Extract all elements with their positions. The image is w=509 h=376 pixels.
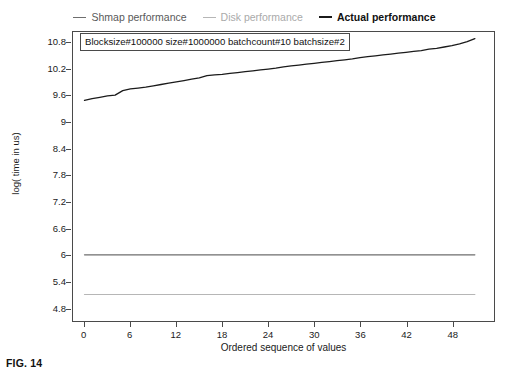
y-axis-tick-label: 6 [20, 250, 66, 260]
y-axis-tick-label: 9 [20, 117, 66, 127]
legend-label-disk: Disk performance [221, 11, 303, 23]
y-axis-tick-mark [66, 149, 71, 150]
x-axis-tick-label: 42 [387, 329, 427, 340]
x-axis-tick-mark [84, 322, 85, 327]
x-axis-tick-label: 30 [294, 329, 334, 340]
legend-item-disk: Disk performance [203, 11, 303, 23]
y-axis-tick-mark [66, 255, 71, 256]
legend-label-actual: Actual performance [337, 11, 436, 23]
x-axis-tick-mark [407, 322, 408, 327]
x-axis-tick-mark [222, 322, 223, 327]
y-axis-tick-mark [66, 122, 71, 123]
y-axis-tick-label: 8.4 [20, 144, 66, 154]
x-axis-tick-mark [360, 322, 361, 327]
y-axis-tick-mark [66, 95, 71, 96]
y-axis-title: log( time in us) [10, 114, 21, 214]
x-axis-tick-mark [453, 322, 454, 327]
x-axis-tick-label: 24 [248, 329, 288, 340]
line-swatch-icon [319, 16, 332, 18]
y-axis-tick-mark [66, 229, 71, 230]
y-axis-tick-label: 10.8 [20, 37, 66, 47]
y-axis-tick-mark [66, 282, 71, 283]
y-axis-tick-mark [66, 69, 71, 70]
x-axis-tick-label: 0 [64, 329, 104, 340]
figure-container: Shmap performance Disk performance Actua… [0, 0, 509, 376]
x-axis-tick-label: 48 [433, 329, 473, 340]
y-axis-tick-mark [66, 175, 71, 176]
x-axis-tick-label: 36 [340, 329, 380, 340]
legend-item-shmap: Shmap performance [73, 11, 186, 23]
y-axis-tick-label: 9.6 [20, 90, 66, 100]
x-axis-tick-mark [314, 322, 315, 327]
y-axis-tick-label: 6.6 [20, 224, 66, 234]
y-axis-tick-labels: 4.85.466.67.27.88.499.610.210.8 [14, 0, 66, 376]
figure-caption: FIG. 14 [6, 357, 42, 369]
legend-item-actual: Actual performance [319, 11, 436, 23]
y-axis-tick-label: 5.4 [20, 277, 66, 287]
plot-area [72, 31, 495, 322]
x-axis-tick-labels: 0612182430364248 [0, 329, 509, 341]
x-axis-tick-mark [176, 322, 177, 327]
annotation-box: Blocksize#100000 size#1000000 batchcount… [80, 33, 350, 51]
legend-label-shmap: Shmap performance [91, 11, 186, 23]
x-axis-tick-marks [0, 322, 509, 328]
y-axis-tick-mark [66, 42, 71, 43]
x-axis-title: Ordered sequence of values [72, 342, 495, 353]
x-axis-tick-mark [130, 322, 131, 327]
y-axis-tick-label: 4.8 [20, 304, 66, 314]
y-axis-tick-label: 10.2 [20, 64, 66, 74]
chart-legend: Shmap performance Disk performance Actua… [0, 8, 509, 26]
x-axis-tick-mark [268, 322, 269, 327]
y-axis-tick-mark [66, 202, 71, 203]
plot-svg [73, 32, 494, 321]
x-axis-tick-label: 18 [202, 329, 242, 340]
y-axis-tick-label: 7.2 [20, 197, 66, 207]
line-swatch-icon [73, 17, 86, 18]
y-axis-tick-mark [66, 309, 71, 310]
x-axis-tick-label: 6 [110, 329, 150, 340]
y-axis-tick-label: 7.8 [20, 170, 66, 180]
x-axis-tick-label: 12 [156, 329, 196, 340]
line-swatch-icon [203, 17, 216, 18]
